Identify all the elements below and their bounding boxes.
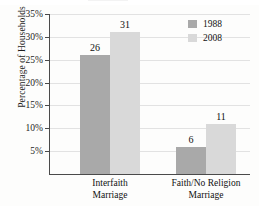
bar-chart-figure: Percentage of Households 35% 30% 25% 20% (0, 0, 259, 206)
x-category-label-interfaith: Interfaith Marriage (65, 178, 155, 201)
y-tick-mark (45, 60, 49, 61)
y-tick-label: 25% (26, 55, 43, 65)
y-tick-mark (45, 83, 49, 84)
y-tick-label: 35% (26, 9, 43, 19)
legend-item-2008: 2008 (188, 31, 222, 45)
y-axis-title: Percentage of Households (17, 0, 27, 132)
legend-swatch-icon (188, 34, 197, 42)
category-line-2: Marriage (154, 190, 258, 202)
bar-interfaith-2008: 31 (110, 32, 140, 174)
x-category-label-faith-no-religion: Faith/No Religion Marriage (154, 178, 258, 201)
bar-value-label: 31 (120, 19, 130, 30)
x-axis-line (49, 174, 250, 175)
category-line-1: Interfaith (65, 178, 155, 190)
title-remnant (88, 0, 128, 1)
bar-value-label: 26 (90, 42, 100, 53)
legend-item-1988: 1988 (188, 17, 222, 31)
y-tick-label: 10% (26, 123, 43, 133)
bar-value-label: 11 (216, 111, 226, 122)
bar-faith-no-religion-2008: 11 (206, 124, 236, 174)
y-tick-label: 20% (26, 78, 43, 88)
y-tick-mark (45, 37, 49, 38)
y-tick-mark (45, 105, 49, 106)
y-tick-label: 15% (26, 100, 43, 110)
legend-label: 1988 (203, 19, 222, 29)
category-line-2: Marriage (65, 190, 155, 202)
gridline (50, 14, 250, 15)
cropped-title-strip (0, 0, 259, 5)
y-tick-label: 30% (26, 32, 43, 42)
bar-interfaith-1988: 26 (80, 55, 110, 174)
legend-swatch-icon (188, 20, 197, 28)
category-line-1: Faith/No Religion (154, 178, 258, 190)
y-tick-mark (45, 151, 49, 152)
y-tick-mark (45, 14, 49, 15)
y-tick-label: 5% (30, 146, 43, 156)
bar-faith-no-religion-1988: 6 (176, 147, 206, 174)
y-tick-mark (45, 128, 49, 129)
bar-value-label: 6 (189, 134, 194, 145)
legend-label: 2008 (203, 33, 222, 43)
legend: 1988 2008 (188, 17, 222, 45)
